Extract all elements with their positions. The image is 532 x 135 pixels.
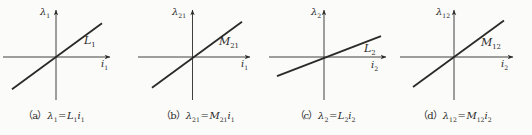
panel-caption: （d）λ12=M12i2 <box>418 109 491 122</box>
math-subscript: 1 <box>244 64 248 71</box>
equals-sign: = <box>200 110 209 121</box>
panel-caption: （b）λ21=M21i1 <box>161 109 234 122</box>
math-subscript: 21 <box>192 116 200 123</box>
panel-a-plot <box>0 0 133 105</box>
panel-b-plot <box>133 0 266 105</box>
y-axis-label: λ12 <box>436 7 450 17</box>
caption-index: （b） <box>161 110 184 121</box>
caption-index: （c） <box>295 110 318 121</box>
math-symbol: L <box>338 110 345 121</box>
math-subscript: 12 <box>449 116 457 123</box>
math-subscript: 12 <box>492 43 501 51</box>
figure-flux-current-graphs: λ1 L1 i1 （a）λ1=L1i1 λ21 M21 i1 （b）λ21=M2… <box>0 0 532 135</box>
y-axis-label: λ1 <box>40 7 50 17</box>
math-subscript: 21 <box>178 12 186 19</box>
caption-equation: λ2=L2i2 <box>318 110 355 121</box>
slope-label: L2 <box>364 43 376 54</box>
equals-sign: = <box>457 110 466 121</box>
x-axis-label: i1 <box>101 59 108 69</box>
panel-caption: （a）λ1=L1i1 <box>23 109 84 122</box>
relationship-line <box>413 21 504 87</box>
caption-index: （d） <box>418 110 441 121</box>
x-axis-label: i2 <box>501 59 508 69</box>
slope-label: M12 <box>481 37 501 48</box>
math-symbol: M <box>481 36 492 49</box>
math-subscript: 1 <box>231 116 235 123</box>
math-subscript: 2 <box>317 12 321 19</box>
math-subscript: 1 <box>104 64 108 71</box>
y-axis-label: λ2 <box>311 7 321 17</box>
math-subscript: 12 <box>442 12 450 19</box>
slope-label: M21 <box>219 36 239 47</box>
caption-equation: λ1=L1i1 <box>47 110 84 121</box>
x-axis-label: i2 <box>371 60 378 70</box>
equals-sign: = <box>58 110 67 121</box>
panel-c-plot <box>266 0 399 105</box>
math-subscript: 1 <box>91 41 95 49</box>
slope-label: L1 <box>84 35 96 46</box>
math-subscript: 2 <box>488 116 492 123</box>
relationship-line <box>152 22 242 88</box>
math-symbol: M <box>219 35 230 48</box>
caption-equation: λ12=M12i2 <box>443 110 492 121</box>
equals-sign: = <box>328 110 337 121</box>
panel-caption: （c）λ2=L2i2 <box>295 109 356 122</box>
math-subscript: 1 <box>81 116 85 123</box>
panel-d-plot <box>399 0 532 105</box>
y-axis-label: λ21 <box>172 7 186 17</box>
math-subscript: 2 <box>352 116 356 123</box>
math-subscript: 21 <box>230 42 239 50</box>
math-subscript: 2 <box>504 64 508 71</box>
math-subscript: 21 <box>220 116 228 123</box>
caption-index: （a） <box>23 110 46 121</box>
caption-equation: λ21=M21i1 <box>186 110 235 121</box>
x-axis-label: i1 <box>241 59 248 69</box>
math-symbol: M <box>209 110 219 121</box>
math-subscript: 12 <box>477 116 485 123</box>
math-subscript: 1 <box>46 12 50 19</box>
math-subscript: 2 <box>371 49 375 57</box>
math-subscript: 2 <box>374 65 378 72</box>
math-symbol: M <box>466 110 476 121</box>
